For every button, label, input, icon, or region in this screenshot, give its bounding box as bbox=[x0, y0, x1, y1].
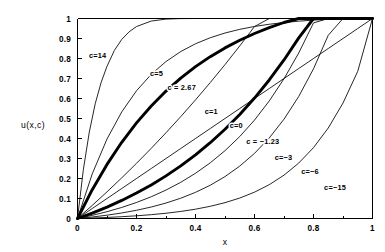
y-tick-label: 0.1 bbox=[59, 195, 71, 204]
curve-label-c1: c=1 bbox=[205, 107, 218, 116]
y-axis-ticks: 00.10.20.30.40.50.60.70.80.91 bbox=[59, 15, 82, 224]
curve-label-group: c=14c=14c=5c=5c = 2.67c = 2.67c=1c=1c=0c… bbox=[89, 51, 346, 192]
x-tick-label: 0.6 bbox=[249, 224, 261, 233]
curve-label-cneg15: c=−15 bbox=[324, 183, 346, 192]
curve-label-cneg6: c=−6 bbox=[301, 167, 319, 176]
x-tick-label: 0 bbox=[75, 224, 80, 233]
x-tick-label: 0.4 bbox=[190, 224, 202, 233]
curve-label-c0: c=0 bbox=[230, 121, 243, 130]
y-axis-title: u(x,c) bbox=[21, 120, 45, 130]
y-tick-label: 0.8 bbox=[59, 55, 71, 64]
x-tick-label: 0.8 bbox=[308, 224, 320, 233]
y-tick-label: 1 bbox=[66, 15, 71, 24]
y-tick-label: 0.3 bbox=[59, 155, 71, 164]
curve-label-cneg3: c=−3 bbox=[275, 153, 293, 162]
y-tick-label: 0.5 bbox=[59, 115, 71, 124]
x-tick-label: 0.2 bbox=[131, 224, 143, 233]
y-tick-label: 0.2 bbox=[59, 175, 71, 184]
curve-label-c14: c=14 bbox=[89, 51, 107, 60]
curve-label-c5: c=5 bbox=[150, 69, 163, 78]
chart-figure: 00.10.20.30.40.50.60.70.80.9100.20.40.60… bbox=[0, 0, 385, 252]
x-axis-title: x bbox=[223, 237, 228, 247]
y-tick-label: 0.9 bbox=[59, 35, 71, 44]
utility-curves-chart: 00.10.20.30.40.50.60.70.80.9100.20.40.60… bbox=[0, 0, 385, 252]
x-tick-label: 1 bbox=[370, 224, 375, 233]
y-tick-label: 0.4 bbox=[59, 135, 71, 144]
curve-label-c267: c = 2.67 bbox=[167, 83, 196, 92]
curve-label-cneg123: c = −1.23 bbox=[246, 137, 279, 146]
y-tick-label: 0.7 bbox=[59, 75, 71, 84]
y-tick-label: 0.6 bbox=[59, 95, 71, 104]
y-tick-label: 0 bbox=[66, 215, 71, 224]
